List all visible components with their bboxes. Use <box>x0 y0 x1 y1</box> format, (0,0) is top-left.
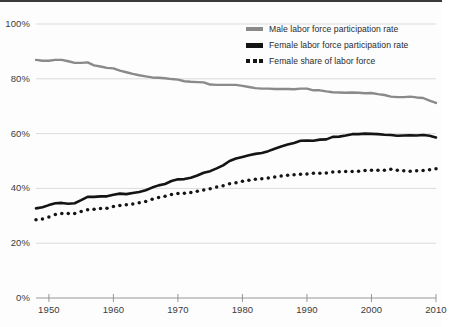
chart-legend: Male labor force participation rate Fema… <box>246 22 440 70</box>
y-axis-tick-label: 100% <box>0 18 30 29</box>
y-axis-tick-label: 60% <box>0 128 30 139</box>
y-axis-tick-label: 40% <box>0 182 30 193</box>
y-axis-tick-label: 80% <box>0 73 30 84</box>
x-axis-tick-label: 1970 <box>161 304 195 315</box>
legend-swatch-male-icon <box>246 27 263 31</box>
legend-item-share: Female share of labor force <box>246 54 440 68</box>
legend-swatch-female-icon <box>246 43 263 48</box>
x-axis-tick-label: 1950 <box>32 304 66 315</box>
x-axis-tick-label: 2010 <box>419 304 451 315</box>
data-series <box>34 60 438 221</box>
x-axis-tick-label: 1980 <box>225 304 259 315</box>
legend-item-male: Male labor force participation rate <box>246 22 440 36</box>
x-axis-tick-label: 1990 <box>290 304 324 315</box>
y-axis-tick-label: 20% <box>0 237 30 248</box>
legend-swatch-share-icon <box>246 59 263 64</box>
legend-item-female: Female labor force participation rate <box>246 38 440 52</box>
legend-label-male: Male labor force participation rate <box>269 24 398 34</box>
y-axis-tick-label: 0% <box>0 292 30 303</box>
legend-label-female: Female labor force participation rate <box>269 40 408 50</box>
x-axis-tick-label: 2000 <box>354 304 388 315</box>
legend-label-share: Female share of labor force <box>269 56 375 66</box>
x-axis-tick-label: 1960 <box>96 304 130 315</box>
